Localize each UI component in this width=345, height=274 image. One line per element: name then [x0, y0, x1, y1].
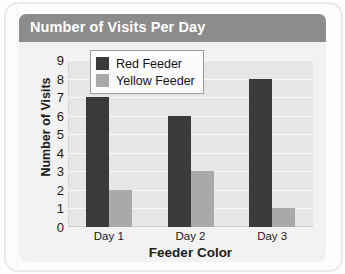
- bar: [86, 97, 109, 227]
- legend-swatch-icon: [96, 74, 109, 87]
- x-axis-tick-labels: Day 1Day 2Day 3: [68, 230, 313, 246]
- y-axis-tick-label: 0: [49, 221, 64, 234]
- y-axis-tick-label: 4: [49, 146, 64, 159]
- y-axis-tick-label: 8: [49, 72, 64, 85]
- y-axis-tick-labels: 0123456789: [49, 60, 64, 226]
- bar: [249, 79, 272, 227]
- y-axis-tick-label: 5: [49, 128, 64, 141]
- x-axis-tick-label: Day 3: [257, 230, 287, 242]
- legend-item: Red Feeder: [96, 55, 195, 72]
- chart-figure-card: Number of Visits Per Day Number of Visit…: [19, 14, 326, 262]
- y-axis-tick-label: 2: [49, 183, 64, 196]
- x-axis-tick-label: Day 1: [94, 230, 124, 242]
- y-axis-tick-label: 6: [49, 109, 64, 122]
- bar: [191, 171, 214, 227]
- bar: [109, 190, 132, 227]
- legend-item: Yellow Feeder: [96, 72, 195, 89]
- y-axis-tick-label: 9: [49, 54, 64, 67]
- chart-title: Number of Visits Per Day: [30, 19, 205, 35]
- legend-swatch-icon: [96, 57, 109, 70]
- paper-margin-line: [17, 2, 18, 272]
- chart-legend: Red FeederYellow Feeder: [90, 50, 204, 94]
- y-axis-line: [68, 60, 69, 227]
- bar: [272, 208, 295, 227]
- page-frame: Number of Visits Per Day Number of Visit…: [0, 0, 345, 274]
- y-axis-tick-label: 3: [49, 165, 64, 178]
- bar: [168, 116, 191, 227]
- legend-item-label: Red Feeder: [116, 57, 182, 71]
- chart-body: Number of Visits 0123456789 Red FeederYe…: [19, 42, 326, 262]
- y-axis-tick-label: 1: [49, 202, 64, 215]
- x-axis-title: Feeder Color: [68, 245, 313, 260]
- x-axis-tick-label: Day 2: [175, 230, 205, 242]
- y-axis-tick-label: 7: [49, 91, 64, 104]
- chart-title-band: Number of Visits Per Day: [19, 14, 326, 42]
- legend-item-label: Yellow Feeder: [116, 74, 195, 88]
